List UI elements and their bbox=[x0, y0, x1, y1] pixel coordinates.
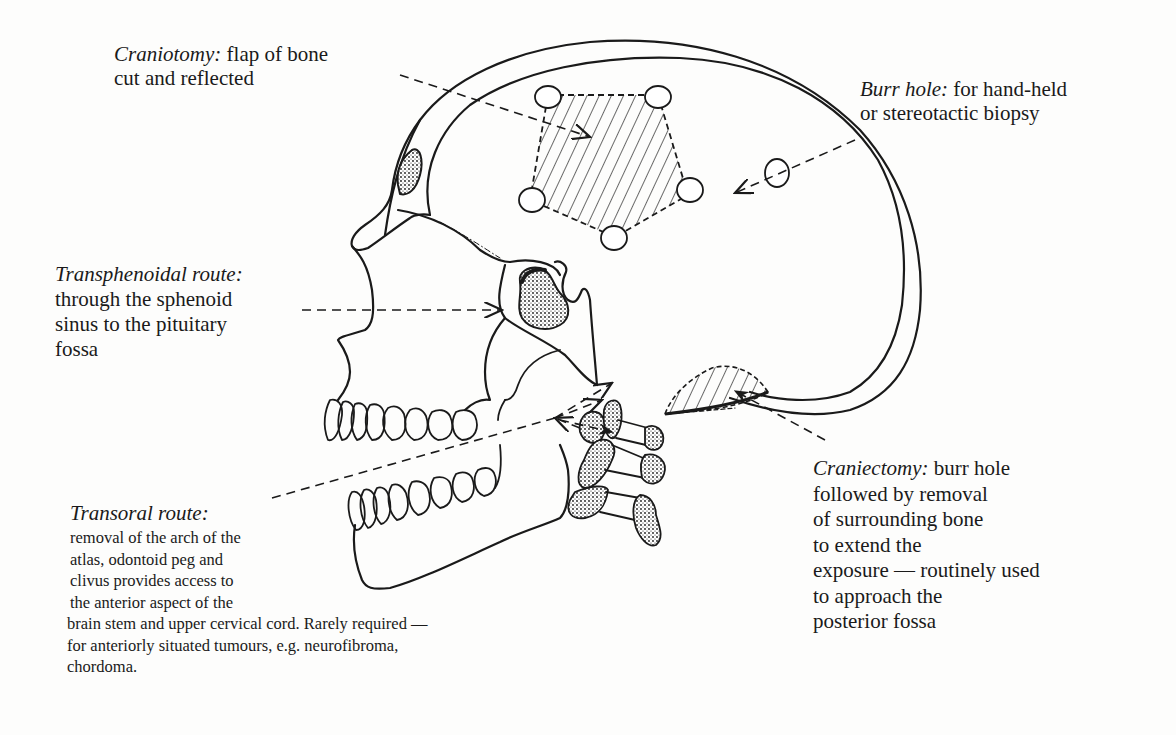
burr-hole-label: Burr hole: for hand-held or stereotactic… bbox=[860, 77, 1067, 125]
transoral-pointer bbox=[272, 418, 555, 498]
burr-hole-5 bbox=[519, 188, 545, 212]
craniotomy-flap bbox=[519, 86, 703, 250]
burr-hole-pointer bbox=[735, 140, 855, 193]
craniectomy-label: Craniectomy: burr hole followed by remov… bbox=[813, 456, 1040, 635]
craniotomy-term: Craniotomy: bbox=[114, 42, 221, 66]
craniotomy-label: Craniotomy: flap of bone cut and reflect… bbox=[114, 42, 328, 90]
diagram-canvas: Craniotomy: flap of bone cut and reflect… bbox=[0, 0, 1176, 735]
transphenoidal-term: Transphenoidal route: bbox=[55, 262, 243, 286]
skull-inner-contour bbox=[427, 58, 904, 400]
cervical-vertebrae bbox=[568, 400, 665, 545]
burr-hole-term: Burr hole: bbox=[860, 77, 948, 101]
craniectomy-term: Craniectomy: bbox=[813, 456, 928, 480]
transoral-label: Transoral route: removal of the arch of … bbox=[70, 500, 428, 678]
face-profile bbox=[338, 246, 373, 400]
burr-hole-4 bbox=[601, 226, 627, 250]
burr-hole-2 bbox=[645, 86, 671, 108]
transoral-term: Transoral route: bbox=[70, 501, 209, 525]
upper-teeth bbox=[325, 400, 477, 441]
burr-hole-1 bbox=[535, 86, 561, 108]
nasal-bone bbox=[352, 214, 430, 250]
maxilla bbox=[465, 318, 505, 410]
single-burr-hole bbox=[765, 159, 789, 187]
burr-hole-3 bbox=[677, 178, 703, 202]
transphenoidal-label: Transphenoidal route: through the spheno… bbox=[55, 262, 243, 362]
